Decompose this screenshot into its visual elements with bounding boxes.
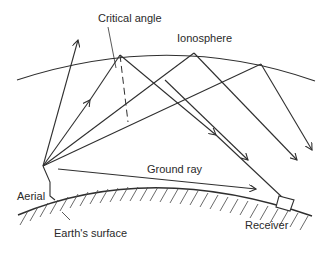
reflected-ray-1b [165,80,248,160]
label-earths-surface: Earth's surface [54,227,127,239]
label-aerial: Aerial [17,190,45,202]
ionosphere-layer [17,55,315,81]
ray-to-reflection-1 [43,100,90,166]
label-critical-angle: Critical angle [98,12,162,24]
critical-angle-leader [108,27,116,68]
critical-angle-normal [120,55,128,122]
label-ground-ray: Ground ray [147,163,203,175]
label-receiver: Receiver [245,219,289,231]
escaping-ray [43,40,78,166]
radio-propagation-diagram: Critical angle Ionosphere Ground ray Aer… [0,0,330,254]
earths-surface-leader [62,212,70,220]
ray-to-reflection-3 [43,64,261,166]
ray-to-reflection-2 [43,53,194,166]
earth-surface [18,188,312,216]
reflected-ray-2 [194,53,297,160]
label-ionosphere: Ionosphere [177,32,232,44]
receiver [276,196,294,211]
